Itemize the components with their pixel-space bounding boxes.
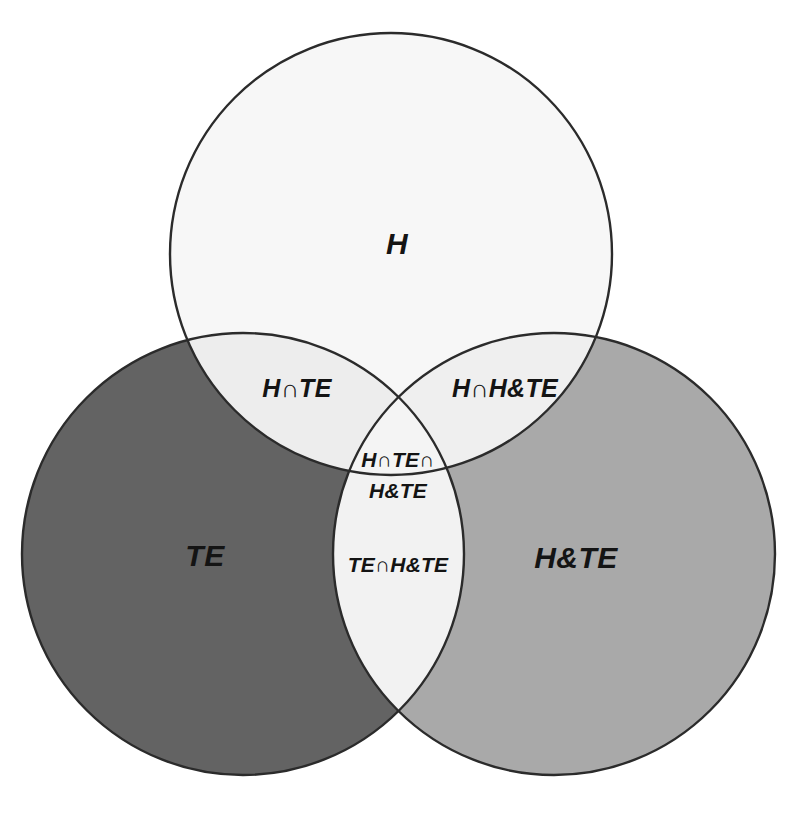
intersection-label-h-te: H∩TE [262,374,332,402]
intersection-label-triple-line2: H&TE [369,479,428,502]
venn-diagram-svg: H TE H&TE H∩TE H∩H&TE TE∩H&TE H∩TE∩ H&TE [0,0,794,824]
intersection-label-h-hte: H∩H&TE [452,374,559,402]
intersection-label-triple-line1: H∩TE∩ [361,448,434,471]
set-label-h: H [386,227,409,260]
set-label-te: TE [185,539,225,572]
intersection-label-te-hte: TE∩H&TE [348,553,449,576]
set-label-hte: H&TE [534,541,618,574]
venn-diagram-canvas: H TE H&TE H∩TE H∩H&TE TE∩H&TE H∩TE∩ H&TE [0,0,794,824]
